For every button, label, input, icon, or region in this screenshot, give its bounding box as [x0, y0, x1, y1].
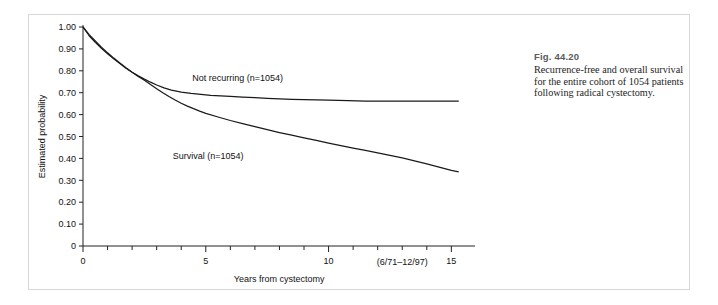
x-tick-label: 0: [80, 256, 85, 266]
series-label-0: Not recurring (n=1054): [192, 73, 283, 83]
y-tick-label: 1.00: [58, 22, 76, 32]
y-tick-label: 0.10: [58, 219, 76, 229]
y-tick-label: 0.70: [58, 88, 76, 98]
figure-number: Fig. 44.20: [534, 51, 684, 62]
y-tick-label: 0.40: [58, 154, 76, 164]
y-tick-label: 0.80: [58, 66, 76, 76]
series-line-0: [83, 27, 459, 101]
y-tick-label: 0.60: [58, 110, 76, 120]
series-line-1: [83, 27, 459, 172]
y-tick-label: 0.20: [58, 197, 76, 207]
x-tick-label: 5: [203, 256, 208, 266]
y-axis-title: Estimated probability: [37, 94, 47, 178]
y-tick-label: 0: [71, 241, 76, 251]
y-tick-label: 0.30: [58, 176, 76, 186]
y-tick-label: 0.50: [58, 132, 76, 142]
chart-plot-area: 00.100.200.300.400.500.600.700.800.901.0…: [29, 15, 529, 291]
x-tick-label: 10: [324, 256, 334, 266]
figure-frame: 00.100.200.300.400.500.600.700.800.901.0…: [28, 14, 690, 290]
x-axis-title: Years from cystectomy: [234, 274, 325, 284]
figure-caption-text: Recurrence-free and overall survival for…: [534, 64, 684, 99]
date-range: (6/71–12/97): [377, 257, 428, 267]
figure-caption-block: Fig. 44.20 Recurrence-free and overall s…: [534, 51, 684, 99]
series-label-1: Survival (n=1054): [173, 151, 244, 161]
x-tick-label: 15: [446, 256, 456, 266]
survival-chart: 00.100.200.300.400.500.600.700.800.901.0…: [29, 15, 529, 291]
y-tick-label: 0.90: [58, 44, 76, 54]
